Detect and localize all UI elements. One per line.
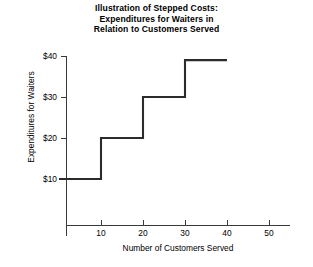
plot-area — [0, 0, 313, 267]
step-cost-line — [59, 60, 227, 179]
chart-figure: Illustration of Stepped Costs: Expenditu… — [0, 0, 313, 267]
